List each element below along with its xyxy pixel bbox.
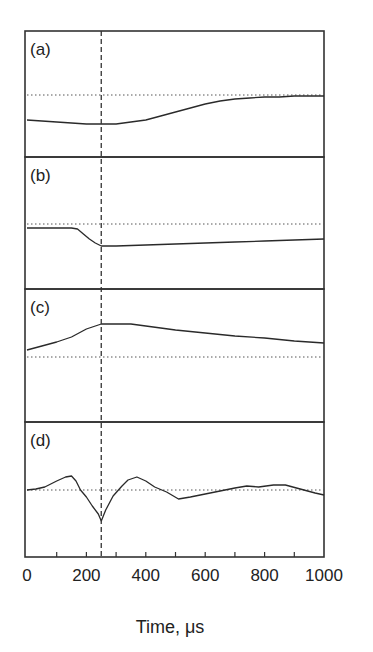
- panel-label: (a): [30, 40, 51, 59]
- x-tick-label: 0: [22, 566, 31, 585]
- x-tick-label: 600: [191, 566, 219, 585]
- x-axis-label: Time, μs: [136, 617, 205, 637]
- panels-group: (a)(b)(c)(d): [25, 31, 324, 557]
- panel-frame: [25, 157, 324, 289]
- figure: (a)(b)(c)(d) 02004006008001000 Time, μs: [0, 0, 373, 652]
- panel-label: (d): [30, 431, 51, 450]
- panel-label: (b): [30, 166, 51, 185]
- data-line-b: [27, 228, 324, 246]
- panel-d: (d): [25, 422, 324, 557]
- panel-c: (c): [25, 289, 324, 422]
- x-tick-label: 1000: [305, 566, 343, 585]
- panel-frame: [25, 289, 324, 422]
- panel-frame: [25, 31, 324, 157]
- data-line-a: [27, 96, 324, 124]
- x-tick-label: 400: [132, 566, 160, 585]
- panel-a: (a): [25, 31, 324, 157]
- data-line-c: [27, 324, 324, 350]
- panel-b: (b): [25, 157, 324, 289]
- x-tick-label: 200: [72, 566, 100, 585]
- data-line-d: [27, 476, 324, 521]
- x-tick-label: 800: [250, 566, 278, 585]
- panel-label: (c): [30, 298, 50, 317]
